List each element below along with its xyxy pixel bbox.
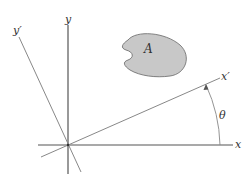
area-a-shape [122, 34, 186, 77]
y-prime-axis [19, 37, 81, 172]
x-prime-axis-label: x′ [221, 71, 230, 82]
origin-point [67, 144, 69, 146]
diagram-graphics [0, 0, 252, 184]
y-prime-axis-label: y′ [13, 25, 22, 36]
angle-theta-label: θ [219, 110, 226, 121]
axes-rotation-diagram: y y′ A x′ θ x [0, 0, 252, 184]
angle-arc [206, 85, 220, 145]
y-axis-label: y [65, 14, 71, 25]
x-axis-label: x [235, 139, 241, 150]
area-a-label: A [144, 43, 153, 55]
